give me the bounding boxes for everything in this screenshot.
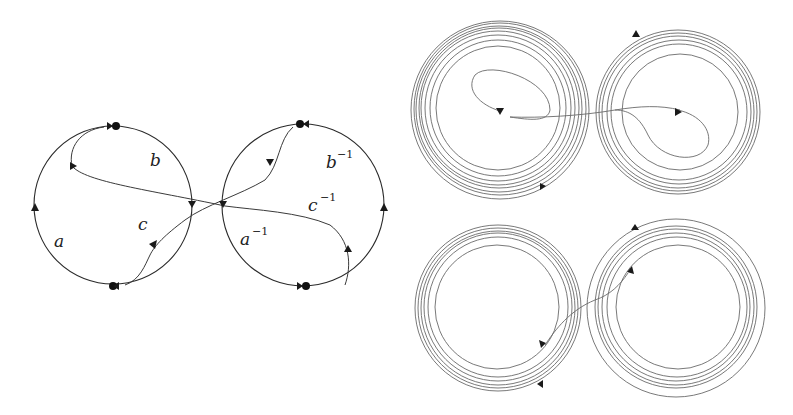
arrow-icon xyxy=(31,203,39,211)
vertex-dot xyxy=(302,282,310,290)
arrow-icon xyxy=(303,120,309,128)
arrow-icon xyxy=(70,162,77,170)
spiral-top-right xyxy=(596,30,760,194)
label-c-inverse: c xyxy=(308,195,318,215)
label-c: c xyxy=(138,214,148,234)
label-a-inverse-exp: −1 xyxy=(252,225,268,238)
spiral-bottom-right xyxy=(587,219,765,397)
label-b: b xyxy=(150,150,161,170)
label-b-inverse: b xyxy=(326,152,337,172)
right-circle xyxy=(222,124,384,286)
arrow-icon xyxy=(380,203,388,211)
arrow-icon xyxy=(631,224,639,230)
arrow-icon xyxy=(496,108,504,115)
label-a-inverse: a xyxy=(240,229,250,249)
spiral-bottom-left xyxy=(415,225,595,391)
arrow-icon xyxy=(266,159,274,166)
arrow-icon xyxy=(149,240,157,249)
figure-canvas: b a c b −1 c −1 a −1 xyxy=(0,0,793,415)
label-b-inverse-exp: −1 xyxy=(337,148,353,161)
vertex-dot xyxy=(296,120,304,128)
vertex-dot xyxy=(112,122,120,130)
left-diagram: b a c b −1 c −1 a −1 xyxy=(31,120,388,290)
label-a: a xyxy=(54,231,64,251)
label-c-inverse-exp: −1 xyxy=(320,191,336,204)
arrow-icon xyxy=(107,122,113,130)
arrow-icon xyxy=(297,282,303,290)
left-circle xyxy=(34,126,192,284)
arrow-icon xyxy=(188,201,196,208)
arrow-icon xyxy=(540,183,546,190)
arrow-icon xyxy=(632,30,640,37)
